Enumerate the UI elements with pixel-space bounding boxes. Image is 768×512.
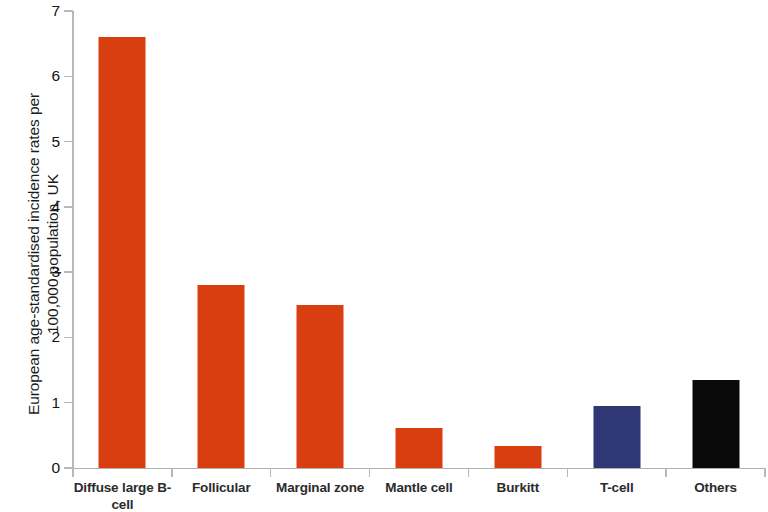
x-axis-category-label: Burkitt: [462, 479, 573, 496]
y-axis-tick-label: 7: [34, 2, 60, 20]
bar-slot: [172, 11, 271, 468]
x-axis-tick: [171, 468, 173, 477]
x-axis-tick: [72, 468, 74, 477]
bar[interactable]: [297, 305, 344, 468]
bar[interactable]: [395, 428, 442, 468]
x-axis-category-label: Diffuse large B-cell: [67, 479, 178, 512]
bar-slot: [567, 11, 666, 468]
x-axis-category-label-line: cell: [67, 496, 178, 512]
x-axis-category-label-line: Diffuse large B-: [67, 479, 178, 496]
x-axis-category-label-line: Marginal zone: [265, 479, 376, 496]
x-axis-tick: [764, 468, 766, 477]
bar[interactable]: [99, 37, 146, 468]
y-axis-tick-label: 4: [34, 198, 60, 216]
y-axis-tick-label: 5: [34, 133, 60, 151]
bar-slot: [271, 11, 370, 468]
x-axis-tick: [369, 468, 371, 477]
bar-slot: [370, 11, 469, 468]
bar[interactable]: [198, 285, 245, 468]
x-axis-tick: [665, 468, 667, 477]
x-axis-category-label-line: T-cell: [561, 479, 672, 496]
bar[interactable]: [692, 380, 739, 468]
x-axis-category-label-line: Mantle cell: [364, 479, 475, 496]
x-axis-category-label: Marginal zone: [265, 479, 376, 496]
x-axis-category-label: Mantle cell: [364, 479, 475, 496]
y-axis-tick-label: 1: [34, 394, 60, 412]
x-axis-category-label-line: Others: [660, 479, 768, 496]
bar-slot: [468, 11, 567, 468]
x-axis-tick: [468, 468, 470, 477]
plot-area: [73, 11, 765, 468]
x-axis-category-label: Others: [660, 479, 768, 496]
x-axis-tick: [567, 468, 569, 477]
x-axis-category-label-line: Follicular: [166, 479, 277, 496]
bar-chart-figure: European age-standardised incidence rate…: [0, 0, 768, 512]
bar-slot: [666, 11, 765, 468]
x-axis-category-label-line: Burkitt: [462, 479, 573, 496]
y-axis-tick-label: 0: [34, 459, 60, 477]
bar[interactable]: [593, 406, 640, 468]
y-axis-tick-labels: 01234567: [30, 0, 60, 512]
y-axis-tick-label: 6: [34, 67, 60, 85]
bar-slot: [73, 11, 172, 468]
y-axis-tick-label: 2: [34, 328, 60, 346]
x-axis-category-label: Follicular: [166, 479, 277, 496]
bar[interactable]: [494, 446, 541, 468]
y-axis-tick-label: 3: [34, 263, 60, 281]
x-axis-tick: [270, 468, 272, 477]
x-axis-category-label: T-cell: [561, 479, 672, 496]
